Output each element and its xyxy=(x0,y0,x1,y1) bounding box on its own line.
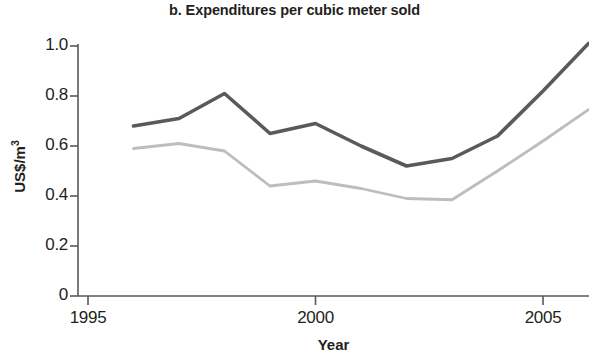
x-axis-title: Year xyxy=(78,336,589,353)
x-tick-label: 2005 xyxy=(525,308,562,328)
x-tick-labels: 199520002005 xyxy=(0,0,589,363)
chart-container: b. Expenditures per cubic meter sold US$… xyxy=(0,0,589,363)
x-tick-label: 2000 xyxy=(297,308,334,328)
x-tick-label: 1995 xyxy=(70,308,107,328)
